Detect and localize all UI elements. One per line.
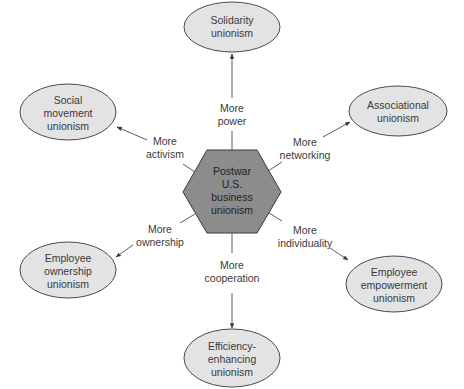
node-text-line: unionism	[211, 27, 253, 39]
node-text-line: enhancing	[208, 353, 257, 365]
center-text-line: Postwar	[213, 165, 251, 177]
center-node-business-unionism: Postwar U.S. business unionism	[183, 150, 281, 233]
edge-label-individuality: More individuality	[278, 224, 333, 249]
node-text-line: ownership	[44, 265, 92, 277]
node-employee-empowerment-unionism: Employee empowerment unionism	[346, 256, 442, 312]
edge-label-line: More	[220, 259, 244, 271]
node-associational-unionism: Associational unionism	[349, 86, 447, 136]
node-text-line: unionism	[373, 292, 415, 304]
edge-label-line: More	[153, 135, 177, 147]
node-solidarity-unionism: Solidarity unionism	[184, 2, 280, 52]
ellipse-shape	[349, 86, 447, 136]
node-employee-ownership-unionism: Employee ownership unionism	[20, 242, 116, 298]
edge-label-activism: More activism	[146, 135, 184, 160]
node-text-line: empowerment	[361, 279, 428, 291]
edge-label-line: networking	[280, 149, 331, 161]
connector-networking-arrow	[323, 122, 350, 137]
edge-label-cooperation: More cooperation	[205, 259, 260, 284]
node-text-line: Efficiency-	[208, 340, 257, 352]
center-text-line: U.S.	[222, 178, 242, 190]
node-text-line: Employee	[371, 266, 418, 278]
connector-ownership-lower	[180, 214, 195, 223]
node-text-line: Social	[54, 94, 83, 106]
node-text-line: unionism	[47, 120, 89, 132]
connector-individuality-arrow	[330, 248, 348, 260]
connector-activism-lower	[183, 164, 195, 172]
center-text-line: unionism	[211, 204, 253, 216]
edge-label-line: More	[220, 102, 244, 114]
edge-label-line: ownership	[136, 236, 184, 248]
edge-label-line: individuality	[278, 237, 333, 249]
node-text-line: Associational	[367, 99, 429, 111]
connector-individuality-lower	[269, 213, 282, 221]
edge-label-line: activism	[146, 148, 184, 160]
node-efficiency-enhancing-unionism: Efficiency- enhancing unionism	[184, 329, 280, 387]
edge-label-line: More	[293, 224, 317, 236]
node-text-line: unionism	[211, 366, 253, 378]
edge-label-power: More power	[218, 102, 247, 127]
diagram-canvas: Postwar U.S. business unionism Solidarit…	[0, 0, 464, 389]
edge-label-line: More	[293, 136, 317, 148]
connector-activism-arrow	[117, 127, 147, 140]
connector-ownership-arrow	[116, 245, 133, 257]
node-social-movement-unionism: Social movement unionism	[20, 84, 116, 140]
edge-label-line: cooperation	[205, 272, 260, 284]
edge-label-ownership: More ownership	[136, 223, 184, 248]
node-text-line: movement	[43, 107, 92, 119]
node-text-line: Employee	[45, 252, 92, 264]
node-text-line: unionism	[377, 112, 419, 124]
edge-label-networking: More networking	[280, 136, 331, 161]
edge-label-line: power	[218, 115, 247, 127]
connector-networking-lower	[268, 162, 282, 171]
node-text-line: unionism	[47, 278, 89, 290]
edge-label-line: More	[148, 223, 172, 235]
node-text-line: Solidarity	[210, 14, 254, 26]
center-text-line: business	[211, 191, 252, 203]
